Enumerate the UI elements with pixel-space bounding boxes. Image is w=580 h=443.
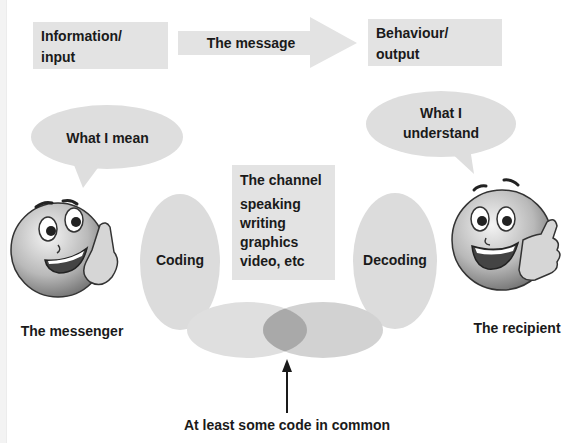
- output-box-line1: Behaviour/: [376, 23, 494, 44]
- channel-title: The channel: [240, 170, 327, 190]
- channel-item: speaking: [240, 195, 327, 214]
- output-box: Behaviour/ output: [368, 19, 502, 66]
- channel-box: The channel speaking writing graphics vi…: [232, 165, 335, 280]
- message-arrow-label: The message: [206, 33, 296, 53]
- channel-item: writing: [240, 214, 327, 233]
- input-box-line1: Information/: [41, 26, 160, 47]
- messenger-smiley-icon: [11, 200, 118, 297]
- channel-item: graphics: [240, 233, 327, 252]
- recipient-bubble-line1: What I: [395, 103, 487, 123]
- input-box-line2: input: [41, 47, 160, 68]
- messenger-caption: The messenger: [20, 321, 124, 341]
- recipient-smiley-icon: [452, 180, 560, 290]
- recipient-caption: The recipient: [470, 318, 564, 338]
- channel-item: video, etc: [240, 252, 327, 271]
- decoding-label: Decoding: [356, 250, 434, 270]
- output-box-line2: output: [376, 44, 494, 65]
- up-arrow-icon: [282, 359, 292, 413]
- messenger-bubble-text: What I mean: [60, 128, 155, 148]
- common-code-caption: At least some code in common: [170, 415, 404, 435]
- input-box: Information/ input: [33, 22, 168, 69]
- recipient-bubble-line2: understand: [395, 123, 487, 143]
- coding-label: Coding: [150, 250, 210, 270]
